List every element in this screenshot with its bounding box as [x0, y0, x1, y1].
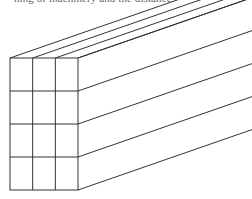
prism-group: [10, 0, 252, 190]
prism-diagram: [0, 0, 252, 199]
top-receding-line-0: [10, 0, 206, 58]
side-receding-line-3: [78, 89, 252, 157]
side-receding-line-2: [78, 56, 252, 124]
side-receding-line-4: [78, 122, 252, 190]
side-receding-line-0: [78, 0, 252, 58]
figure-page: ning or machinery and the distance: [0, 0, 252, 199]
